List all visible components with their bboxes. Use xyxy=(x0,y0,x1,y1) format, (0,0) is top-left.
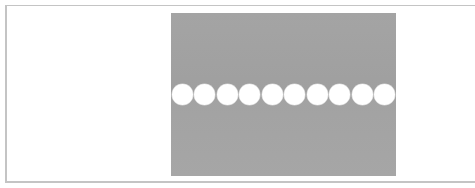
circle-icon xyxy=(194,84,215,105)
circle-icon xyxy=(374,84,395,105)
circle-icon xyxy=(307,84,328,105)
circle-icon xyxy=(217,84,238,105)
circle-icon xyxy=(262,84,283,105)
circle-icon xyxy=(239,84,260,105)
circle-icon xyxy=(284,84,305,105)
gray-panel xyxy=(171,13,396,176)
circle-icon xyxy=(352,84,373,105)
circle-icon xyxy=(329,84,350,105)
panel-lower-half xyxy=(171,95,396,177)
circle-row xyxy=(172,83,395,105)
circle-icon xyxy=(172,84,193,105)
